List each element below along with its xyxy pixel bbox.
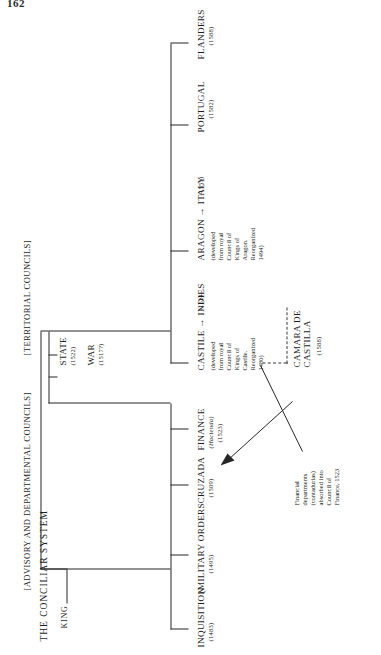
node-finance-label: FINANCE [196, 408, 206, 450]
connector-flanders-tick [170, 42, 188, 43]
node-state-date: (1522) [68, 346, 75, 365]
finance-departments-note: Financial departments (contadurias) abso… [292, 468, 340, 505]
node-military-orders-date: (1495) [206, 554, 213, 573]
node-military-orders-label: (MILITARY ORDERS [196, 502, 206, 593]
connector-departmental-feed [48, 377, 49, 403]
connector-inquisition-tick [170, 628, 188, 629]
connector-spine-right-drop [40, 330, 48, 331]
connector-portugal-tick [170, 124, 188, 125]
node-aragon-italy-note: (developed from royal Council of Kings o… [208, 227, 264, 260]
connector-territorial-drop [48, 330, 170, 331]
connector-camara-dashed [286, 307, 287, 363]
connector-finance-note-to-castile [260, 365, 304, 451]
node-portugal-date: (1582) [206, 99, 213, 118]
node-cruzada-date: (1509) [206, 478, 213, 497]
connector-cruzada-tick [170, 484, 188, 485]
group-heading-territorial: [TERRITORIAL COUNCILS] [22, 240, 31, 356]
node-state-label: STATE [58, 336, 68, 365]
connector-war-tick [48, 354, 57, 355]
conciliar-system-diagram: THE CONCILIAR SYSTEM KING [ADVISORY AND … [0, 0, 381, 655]
connector-territorial-bar [170, 43, 171, 363]
node-aragon-italy-date: (1555) [196, 176, 203, 195]
node-war-date: (1517?) [96, 343, 103, 365]
node-king: KING [60, 605, 69, 628]
node-camara-de-castilla-date: (1588) [314, 336, 321, 355]
connector-departmental-stem [48, 402, 170, 403]
node-war-label: WAR [86, 344, 96, 365]
node-camara-de-castilla-label: CAMARA DE CASTILLA [292, 309, 312, 367]
node-castile-indies-date: (1524 [196, 294, 203, 310]
node-cruzada-label: CRUZADA [196, 456, 206, 503]
connector-finance-tick [170, 428, 188, 429]
connector-spine-top [40, 331, 41, 569]
connector-military-orders-tick [170, 554, 188, 555]
rotated-page-wrapper: THE CONCILIAR SYSTEM KING [ADVISORY AND … [0, 0, 381, 655]
connector-aragon-tick [170, 250, 188, 251]
connector-camara-stem [262, 361, 286, 363]
node-flanders-date: (1588) [206, 26, 213, 45]
connector-king-to-spine [66, 569, 67, 603]
node-portugal-label: PORTUGAL [196, 81, 206, 132]
node-inquisition-label: INQUISITION [196, 587, 206, 647]
group-heading-advisory: [ADVISORY AND DEPARTMENTAL COUNCILS] [22, 392, 31, 590]
node-finance-alt-name: (Hacienda) [206, 416, 213, 448]
node-flanders-label: FLANDERS [196, 9, 206, 59]
node-castile-indies-note: (developed from royal Council of Kings o… [208, 337, 264, 370]
connector-advisory-drop [40, 568, 170, 569]
connector-castile-tick [170, 362, 188, 363]
connector-advisory-bar [170, 403, 171, 629]
node-inquisition-date: (1483) [206, 622, 213, 641]
